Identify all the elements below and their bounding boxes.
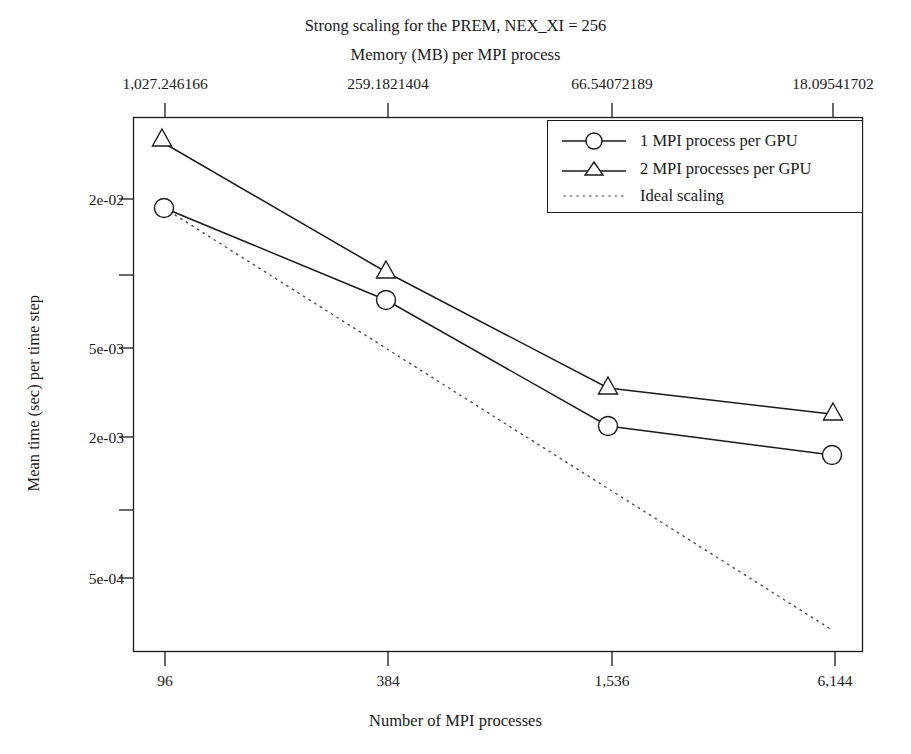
- legend-item-ideal: Ideal scaling: [548, 183, 864, 209]
- legend-label-ideal: Ideal scaling: [640, 186, 724, 206]
- top-tick-marks: [165, 103, 833, 118]
- dotted-line-marker-icon: [560, 183, 628, 209]
- circle-line-marker-icon: [560, 128, 628, 154]
- legend-item-1mpi: 1 MPI process per GPU: [548, 128, 864, 154]
- series-1mpi-markers: [155, 199, 842, 465]
- chart-figure: Strong scaling for the PREM, NEX_XI = 25…: [0, 0, 911, 754]
- series-1mpi-line: [164, 208, 832, 455]
- legend-label-2mpi: 2 MPI processes per GPU: [640, 159, 811, 179]
- legend-item-2mpi: 2 MPI processes per GPU: [548, 156, 864, 182]
- x-tick-marks: [165, 652, 835, 667]
- y-tick-marks: [119, 199, 134, 578]
- series-ideal-scaling-line: [164, 208, 832, 630]
- plot-area: [0, 0, 911, 754]
- legend-label-1mpi: 1 MPI process per GPU: [640, 131, 798, 151]
- triangle-line-marker-icon: [560, 156, 628, 182]
- legend-box: 1 MPI process per GPU 2 MPI processes pe…: [547, 120, 863, 213]
